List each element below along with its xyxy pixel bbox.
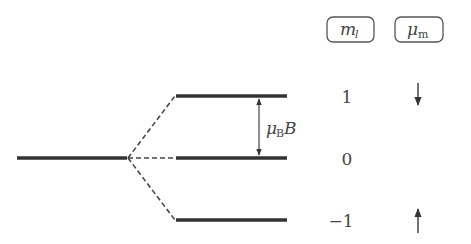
zeeman-diagram: m l μ m μ B B 1 0 −1 <box>0 0 471 244</box>
ml-value-minus1: −1 <box>328 211 353 231</box>
ml-value-0: 0 <box>342 149 353 169</box>
header-ml: m l <box>327 17 374 42</box>
mu-subscript: m <box>418 28 429 41</box>
ml-value-1: 1 <box>342 87 353 107</box>
splitting-label: μ B B <box>266 118 297 140</box>
svg-text:B: B <box>283 118 297 138</box>
ml-subscript: l <box>355 28 359 41</box>
split-connectors <box>128 96 175 220</box>
svg-text:B: B <box>276 127 284 140</box>
mu-symbol: μ <box>407 19 418 39</box>
ml-symbol: m <box>340 19 356 39</box>
header-mu: μ m <box>395 17 443 42</box>
